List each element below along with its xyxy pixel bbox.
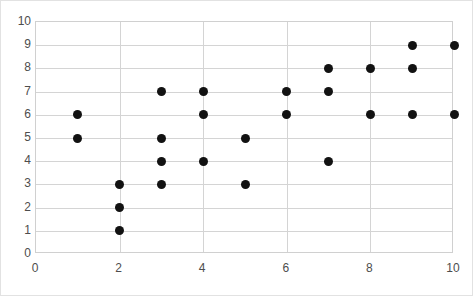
gridline-vertical bbox=[287, 22, 288, 252]
data-point bbox=[241, 134, 250, 143]
data-point bbox=[199, 110, 208, 119]
data-point bbox=[282, 87, 291, 96]
data-point bbox=[199, 157, 208, 166]
gridline-vertical bbox=[370, 22, 371, 252]
gridline-horizontal bbox=[36, 161, 452, 162]
gridline-horizontal bbox=[36, 92, 452, 93]
gridline-horizontal bbox=[36, 45, 452, 46]
data-point bbox=[450, 110, 459, 119]
x-tick-label: 4 bbox=[182, 262, 222, 274]
y-tick-label: 7 bbox=[3, 85, 31, 97]
gridline-vertical bbox=[203, 22, 204, 252]
gridline-horizontal bbox=[36, 231, 452, 232]
y-axis-tick-labels: 012345678910 bbox=[1, 1, 31, 296]
gridline-horizontal bbox=[36, 208, 452, 209]
data-point bbox=[115, 226, 124, 235]
y-tick-label: 0 bbox=[3, 247, 31, 259]
x-tick-label: 6 bbox=[266, 262, 306, 274]
data-point bbox=[408, 64, 417, 73]
y-tick-label: 9 bbox=[3, 38, 31, 50]
y-tick-label: 10 bbox=[3, 15, 31, 27]
y-tick-label: 5 bbox=[3, 131, 31, 143]
data-point bbox=[199, 87, 208, 96]
x-tick-label: 0 bbox=[15, 262, 55, 274]
data-point bbox=[324, 64, 333, 73]
data-point bbox=[73, 110, 82, 119]
gridline-vertical bbox=[120, 22, 121, 252]
x-axis-tick-labels: 0246810 bbox=[1, 262, 473, 278]
data-point bbox=[157, 180, 166, 189]
data-point bbox=[115, 180, 124, 189]
y-tick-label: 1 bbox=[3, 224, 31, 236]
data-point bbox=[408, 110, 417, 119]
y-tick-label: 3 bbox=[3, 177, 31, 189]
data-point bbox=[157, 87, 166, 96]
gridline-horizontal bbox=[36, 68, 452, 69]
x-tick-label: 10 bbox=[433, 262, 473, 274]
data-point bbox=[157, 157, 166, 166]
data-point bbox=[324, 87, 333, 96]
data-point bbox=[366, 110, 375, 119]
y-tick-label: 4 bbox=[3, 154, 31, 166]
data-point bbox=[324, 157, 333, 166]
data-point bbox=[73, 134, 82, 143]
y-tick-label: 8 bbox=[3, 61, 31, 73]
plot-area bbox=[35, 21, 453, 253]
data-point bbox=[366, 64, 375, 73]
data-point bbox=[408, 41, 417, 50]
y-tick-label: 2 bbox=[3, 201, 31, 213]
data-point bbox=[115, 203, 124, 212]
data-point bbox=[450, 41, 459, 50]
x-tick-label: 2 bbox=[99, 262, 139, 274]
scatter-chart: 012345678910 0246810 bbox=[0, 0, 473, 296]
data-point bbox=[157, 134, 166, 143]
x-tick-label: 8 bbox=[349, 262, 389, 274]
data-point bbox=[241, 180, 250, 189]
y-tick-label: 6 bbox=[3, 108, 31, 120]
gridline-horizontal bbox=[36, 115, 452, 116]
data-point bbox=[282, 110, 291, 119]
